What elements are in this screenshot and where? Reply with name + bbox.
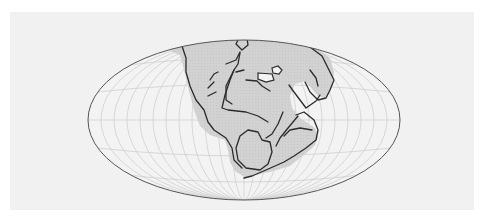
graticule [88, 40, 400, 200]
world-map [0, 0, 488, 220]
